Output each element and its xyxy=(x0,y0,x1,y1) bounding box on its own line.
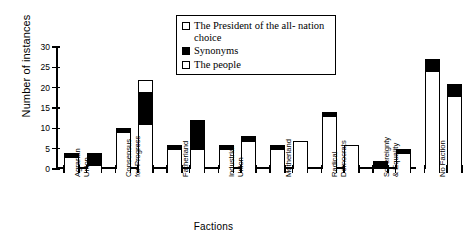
y-tick-label: 5 xyxy=(30,145,50,154)
bar xyxy=(270,145,285,169)
x-axis-title: Factions xyxy=(0,221,427,232)
legend-swatch-president-icon xyxy=(182,22,190,30)
y-tick xyxy=(52,148,60,149)
legend-swatch-synonyms-icon xyxy=(182,47,190,55)
x-tick xyxy=(269,165,270,173)
bar-segment-people xyxy=(447,96,462,169)
bar-segment-people xyxy=(190,149,205,169)
x-tick xyxy=(152,165,153,173)
x-tick xyxy=(461,165,462,173)
x-tick xyxy=(166,165,167,173)
x-tick-label: Sovereignty& Equality xyxy=(383,137,400,177)
x-tick xyxy=(307,165,308,173)
y-tick xyxy=(52,168,60,169)
x-tick-label: RadicalDemocrats xyxy=(331,140,348,177)
y-tick-label: 25 xyxy=(30,63,50,72)
x-tick xyxy=(115,165,116,173)
legend-label-people: The people xyxy=(194,59,241,71)
chart-legend: The President of the all- nation choice … xyxy=(176,15,336,75)
bar-segment-synonyms xyxy=(138,92,153,125)
bar xyxy=(190,120,205,169)
x-tick xyxy=(358,165,359,173)
y-tick-label: 0 xyxy=(30,165,50,174)
legend-swatch-people-icon xyxy=(182,61,190,69)
legend-item-president: The President of the all- nation choice xyxy=(182,20,330,43)
x-tick-label: Motherland xyxy=(285,139,294,177)
x-tick xyxy=(424,165,425,173)
bar-segment-synonyms xyxy=(425,59,440,71)
x-tick xyxy=(101,165,102,173)
bar-segment-people xyxy=(270,149,285,169)
x-tick-label: Consensusfor Progress xyxy=(125,136,142,177)
x-tick xyxy=(321,165,322,173)
x-tick-label: AgrarianUnion xyxy=(74,148,91,177)
legend-item-synonyms: Synonyms xyxy=(182,45,330,57)
x-tick xyxy=(218,165,219,173)
y-tick xyxy=(52,46,60,47)
legend-label-president: The President of the all- nation choice xyxy=(194,20,330,43)
bar-segment-people xyxy=(167,149,182,169)
bar-segment-people xyxy=(293,141,308,169)
bar-segment-synonyms xyxy=(190,120,205,148)
x-tick xyxy=(63,165,64,173)
y-tick xyxy=(52,107,60,108)
y-tick-label: 20 xyxy=(30,84,50,93)
y-tick-label: 10 xyxy=(30,124,50,133)
y-tick-label: 30 xyxy=(30,43,50,52)
x-tick-label: IndustrialUnion xyxy=(228,146,245,177)
x-tick-label: No Faction xyxy=(439,140,448,177)
y-tick xyxy=(52,67,60,68)
legend-label-synonyms: Synonyms xyxy=(194,45,238,57)
x-tick xyxy=(410,165,411,173)
x-tick xyxy=(204,165,205,173)
bar-segment-president xyxy=(138,80,153,92)
x-tick xyxy=(255,165,256,173)
bar xyxy=(167,145,182,169)
bar xyxy=(293,141,308,169)
y-tick xyxy=(52,87,60,88)
x-tick-label: Fatherland xyxy=(182,141,191,177)
y-tick-label: 15 xyxy=(30,104,50,113)
x-tick xyxy=(372,165,373,173)
bar xyxy=(447,84,462,169)
bar-segment-synonyms xyxy=(447,84,462,96)
y-tick xyxy=(52,128,60,129)
legend-item-people: The people xyxy=(182,59,330,71)
